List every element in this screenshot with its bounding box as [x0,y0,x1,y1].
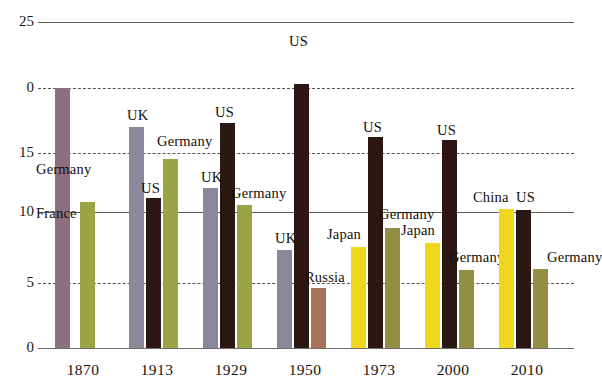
bar-group-1913: UK US Germany [129,38,185,348]
bar-label-1973-us: US [363,120,382,135]
bar-1929-uk[interactable] [203,188,218,348]
bar-label-2010-china: China [473,190,509,205]
x-tick-label-1929: 1929 [191,361,271,378]
bar-label-1913-us: US [141,181,160,196]
bar-2010-germany[interactable] [533,269,548,348]
bar-1950-us[interactable] [294,84,309,348]
bar-label-1950-us: US [289,34,308,49]
bar-label-1870-france: France [36,206,77,221]
bar-2000-us[interactable] [442,140,457,348]
bar-group-1929: UK US Germany [203,38,259,348]
bar-label-1870-germany: Germany [36,162,91,177]
bar-1870-germany[interactable] [80,202,95,348]
bar-1973-us[interactable] [368,137,383,348]
bar-2000-japan[interactable] [425,243,440,348]
bar-1973-japan[interactable] [351,247,366,348]
x-tick-label-1973: 1973 [339,361,419,378]
bar-label-2000-us: US [437,123,456,138]
bar-1973-germany[interactable] [385,228,400,348]
x-tick-label-1870: 1870 [43,361,123,378]
bar-1929-germany[interactable] [237,205,252,348]
bar-label-2000-japan: Japan [401,223,435,238]
y-tick-label-10: 10 [4,204,34,219]
bar-label-1973-japan: Japan [327,227,361,242]
y-tick-label-20: 0 [4,80,34,95]
bar-2000-germany[interactable] [459,270,474,348]
bar-label-1929-us: US [215,105,234,120]
bar-1913-us[interactable] [146,198,161,348]
bar-1950-russia[interactable] [311,288,326,348]
x-axis-baseline [38,348,574,349]
x-tick-label-2010: 2010 [487,361,567,378]
bar-label-1913-uk: UK [127,108,148,123]
bar-1950-uk[interactable] [277,250,292,348]
bar-group-1870: Germany France [55,38,111,348]
bar-2010-china[interactable] [499,209,514,348]
bar-2010-us[interactable] [516,210,531,348]
bar-label-2010-us: US [516,190,535,205]
bar-1913-germany[interactable] [163,159,178,348]
y-tick-label-0: 0 [4,340,34,355]
bar-label-1950-uk: UK [275,231,296,246]
bar-1929-us[interactable] [220,123,235,348]
gridline-25 [38,22,574,23]
bar-group-1950: UK US Russia [277,38,333,348]
bar-label-1950-russia: Russia [305,270,345,285]
bar-label-2000-germany: Germany [449,250,504,265]
bar-group-1973: Japan US Germany [351,38,407,348]
bar-label-2010-germany: Germany [547,250,602,265]
y-tick-label-5: 5 [4,275,34,290]
x-tick-label-1913: 1913 [117,361,197,378]
bar-label-1929-uk: UK [201,170,222,185]
x-tick-label-1950: 1950 [265,361,345,378]
bar-1913-uk[interactable] [129,127,144,348]
x-tick-label-2000: 2000 [413,361,493,378]
bar-group-2010: China US Germany [499,38,555,348]
y-tick-label-25: 25 [4,14,34,29]
y-tick-label-15: 15 [4,145,34,160]
